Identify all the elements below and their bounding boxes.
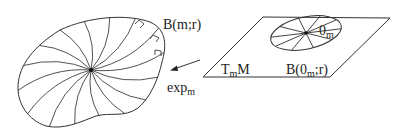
geodesic-line xyxy=(91,70,146,100)
exp-map-label: expm xyxy=(167,80,195,97)
exp-map-arrow xyxy=(170,60,200,71)
geodesic-line xyxy=(60,30,91,70)
geodesic-line xyxy=(91,70,158,80)
geodesic-line xyxy=(39,45,91,70)
geodesic-line xyxy=(91,52,164,70)
geodesic-line xyxy=(49,70,91,127)
right-angle-mark xyxy=(135,20,144,28)
origin-label: 0m xyxy=(319,23,334,40)
exp-map-diagram: B(m;r) expm TmM B(0m;r) 0m xyxy=(0,0,403,133)
geodesic-lines xyxy=(18,18,164,127)
tangent-space-label: TmM xyxy=(221,62,250,79)
geodesic-line xyxy=(91,18,135,70)
base-point-m xyxy=(89,68,93,72)
manifold-ball-label: B(m;r) xyxy=(163,17,201,33)
geodesic-line xyxy=(91,18,110,70)
geodesic-line xyxy=(75,70,91,124)
geodesic-line xyxy=(24,62,91,70)
tangent-ball-label: B(0m;r) xyxy=(286,62,328,79)
manifold-ball xyxy=(18,17,165,127)
geodesic-line xyxy=(28,70,91,114)
tangent-ray xyxy=(289,33,309,50)
